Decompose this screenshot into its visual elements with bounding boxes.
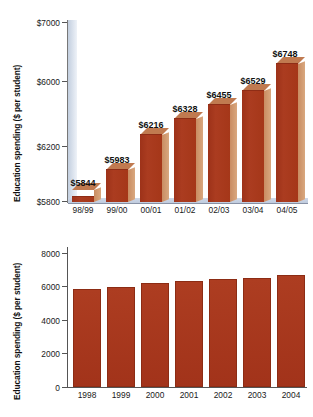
chart-top-bar-1 [72, 190, 94, 202]
chart-top-3d: Education spending ($ per student) $7000… [0, 0, 313, 215]
chart-top-bar-5 [208, 105, 230, 202]
chart-top-bar-7 [276, 64, 298, 202]
bar-front-face [174, 118, 196, 202]
chart-top-ytick-5800: $5800 [22, 197, 60, 207]
chart-top-y-axis-title: Education spending ($ per student) [12, 65, 22, 202]
chart-bottom-ytick-8000: 8000 [22, 249, 60, 259]
chart-bottom-x-axis-line [67, 387, 307, 388]
chart-top-bar-4 [174, 119, 196, 202]
chart-top-y-axis-line [67, 20, 68, 203]
chart-top-label-3: $6216 [126, 120, 176, 130]
chart-bottom-bar-2 [107, 287, 135, 387]
chart-bottom-ytick-0: 0 [22, 383, 60, 393]
bar-side-face [196, 116, 203, 202]
chart-bottom-bar-1 [73, 289, 101, 387]
bar-front-face [276, 63, 298, 202]
chart-bottom-xtick-7: 2004 [268, 390, 313, 400]
chart-top-label-5: $6455 [194, 90, 244, 100]
bar-front-face [106, 169, 128, 202]
chart-bottom-y-axis-title: Education spending ($ per student) [12, 263, 22, 400]
chart-top-label-7: $6748 [260, 49, 310, 59]
chart-top-ytick-6200: $6200 [22, 142, 60, 152]
chart-bottom-ytick-4000: 4000 [22, 316, 60, 326]
chart-top-label-2: $5983 [92, 155, 142, 165]
chart-top-label-4: $6328 [160, 104, 210, 114]
bar-front-face [140, 134, 162, 202]
chart-bottom-flat: Education spending ($ per student) 8000 … [0, 215, 313, 417]
chart-bottom-bar-3 [141, 283, 169, 387]
chart-top-bar-2 [106, 170, 128, 202]
bar-side-face [128, 167, 135, 202]
chart-bottom-y-axis-line [67, 247, 68, 388]
chart-bottom-bar-4 [175, 281, 203, 387]
chart-top-xtick-7: 04/05 [264, 205, 310, 215]
chart-top-bar-3 [140, 135, 162, 202]
bar-front-face [208, 104, 230, 202]
chart-top-label-1: $5844 [58, 178, 108, 188]
chart-bottom-bar-6 [243, 278, 271, 387]
chart-top-label-6: $6529 [228, 76, 278, 86]
chart-bottom-bar-5 [209, 279, 237, 387]
chart-top-bar-6 [242, 91, 264, 202]
chart-bottom-bar-7 [277, 275, 305, 387]
chart-bottom-ytick-2000: 2000 [22, 349, 60, 359]
chart-top-x-axis-line [68, 203, 308, 204]
bar-side-face [264, 88, 271, 202]
chart-top-ytick-6000: $6000 [22, 77, 60, 87]
chart-bottom-ytick-6000: 6000 [22, 282, 60, 292]
bar-side-face [162, 132, 169, 202]
bar-front-face [242, 90, 264, 202]
bar-side-face [298, 61, 305, 202]
bar-side-face [230, 102, 237, 202]
chart-top-ytick-7000: $7000 [22, 18, 60, 28]
bar-front-face [72, 196, 94, 202]
chart-top-back-wall [68, 20, 77, 202]
two-bar-charts-figure: Education spending ($ per student) $7000… [0, 0, 313, 417]
